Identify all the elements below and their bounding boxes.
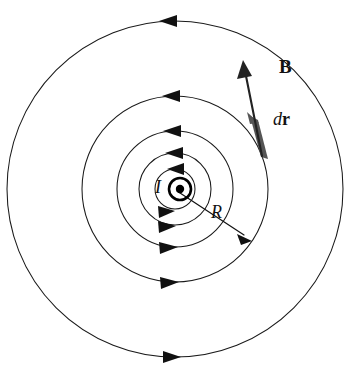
arrowhead-outer-top [162,90,180,102]
wire-dot-icon [176,185,184,193]
outer-field-circle [82,96,268,282]
dr-label: dr [273,110,290,128]
b-field-vector [237,60,262,156]
arrowhead-innermost-lower-left [158,206,175,218]
current-label: I [155,178,161,196]
radius-arrowhead [237,234,252,245]
dr-label-r: r [282,109,290,129]
arrowhead-outermost-bottom [163,351,181,363]
b-field-label: B [279,57,292,76]
arrowhead-inner-lower-left [158,221,176,233]
field-circle-group [7,21,343,357]
current-out-of-page-symbol [169,178,191,200]
arrowhead-outermost-top [159,15,177,27]
b-vector-head [237,60,252,79]
dr-label-d: d [273,109,282,129]
arrowhead-inner-top [165,147,183,159]
magnetic-field-diagram: I R B dr [0,0,346,374]
radius-label: R [211,203,222,221]
diagram-canvas [0,0,346,374]
arrowhead-middle-top [163,125,181,137]
middle-field-circle [117,131,233,247]
inner-field-circle [139,153,211,225]
arrowhead-innermost-top [167,163,184,175]
arrowhead-middle-lower-left [159,242,178,254]
innermost-field-circle [155,169,195,209]
outermost-field-circle [7,21,343,357]
arrowhead-outer-lower-left [160,277,179,289]
